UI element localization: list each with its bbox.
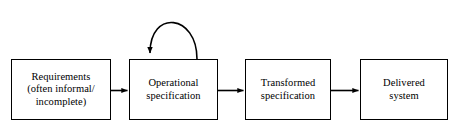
node-operational-specification[interactable]: Operational specification [129,59,218,120]
node-operational-specification-label: Operational specification [144,77,202,102]
node-requirements-label: Requirements (often informal/ incomplete… [25,71,97,108]
node-delivered-system[interactable]: Delivered system [360,59,448,120]
node-requirements[interactable]: Requirements (often informal/ incomplete… [11,59,111,120]
node-delivered-system-label: Delivered system [381,77,427,102]
edge-operational-self-loop [150,22,197,59]
diagram-canvas: Requirements (often informal/ incomplete… [0,0,461,133]
node-transformed-specification[interactable]: Transformed specification [245,59,331,120]
node-transformed-specification-label: Transformed specification [259,77,317,102]
